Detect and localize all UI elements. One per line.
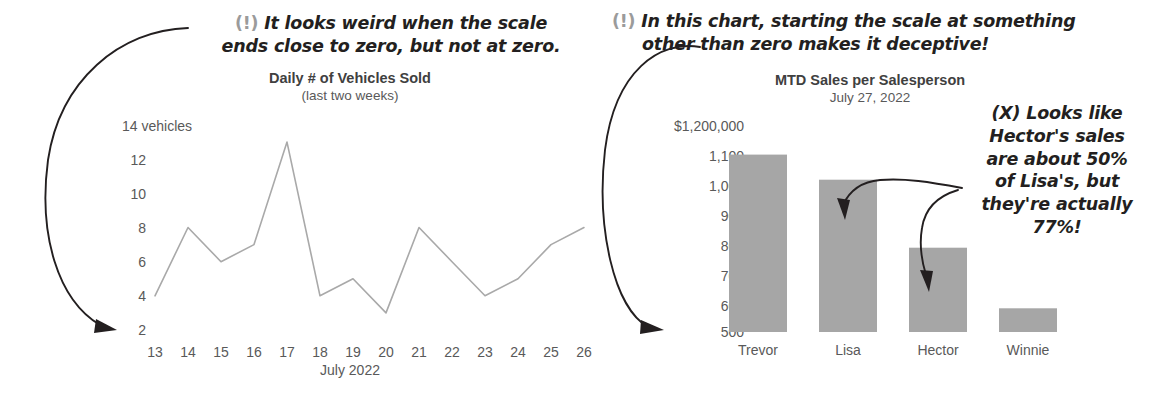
bar-xtick-lisa: Lisa — [806, 342, 890, 358]
annotation-hector: (X) Looks like Hector's sales are about … — [957, 102, 1157, 239]
bar-chart-title: MTD Sales per Salesperson — [720, 72, 1020, 88]
annotation-hector-line6: 77%! — [1032, 217, 1081, 237]
bar-winnie — [999, 308, 1057, 332]
line-chart-subtitle: (last two weeks) — [180, 88, 520, 103]
line-xtick-23: 23 — [474, 344, 496, 360]
line-ytick-2: 2 — [102, 322, 146, 338]
line-xtick-25: 25 — [540, 344, 562, 360]
line-ytick-12: 12 — [102, 152, 146, 168]
bar-ytick-900: 900 — [648, 208, 744, 224]
annotation-left-line2c: zero. — [506, 36, 560, 56]
line-ytick-10: 10 — [102, 186, 146, 202]
bar-ytick-600: 600 — [648, 298, 744, 314]
line-chart-xlabel: July 2022 — [200, 362, 500, 378]
annotation-left-line2a: ends — [222, 36, 274, 56]
annotation-hector-line2: Hector's sales — [989, 126, 1124, 146]
line-chart-title: Daily # of Vehicles Sold — [180, 70, 520, 86]
bar-ytick-500: 500 — [648, 324, 744, 340]
annotation-arrow-hector — [837, 179, 962, 292]
bar-ytick-700: 700 — [648, 268, 744, 284]
line-xtick-21: 21 — [408, 344, 430, 360]
bar-ytick-1000: 1,000 — [648, 178, 744, 194]
line-xtick-20: 20 — [375, 344, 397, 360]
line-xtick-22: 22 — [441, 344, 463, 360]
bar-xtick-trevor: Trevor — [716, 342, 800, 358]
line-ytick-4: 4 — [102, 288, 146, 304]
bar-ytick-800: 800 — [648, 238, 744, 254]
annotation-left-line1: It looks weird when the scale — [258, 13, 547, 33]
line-xtick-13: 13 — [144, 344, 166, 360]
annotation-hector-line1: (X) Looks like — [991, 103, 1122, 123]
slide-canvas: (!) It looks weird when the scale ends c… — [0, 0, 1165, 402]
annotation-hector-line4: of Lisa's, but — [995, 171, 1119, 191]
bar-xtick-hector: Hector — [896, 342, 980, 358]
bar-ytick-1100: 1,100 — [648, 148, 744, 164]
line-ytick-14: 14 vehicles — [122, 118, 192, 134]
line-xtick-26: 26 — [573, 344, 595, 360]
bar-ytick-1200000: $1,200,000 — [648, 118, 744, 134]
bar-xtick-winnie: Winnie — [986, 342, 1070, 358]
line-xtick-14: 14 — [177, 344, 199, 360]
line-xtick-18: 18 — [309, 344, 331, 360]
line-ytick-8: 8 — [102, 220, 146, 236]
line-chart-series — [155, 142, 584, 313]
warning-marker-icon-right: (!) — [612, 11, 635, 31]
annotation-left-line2b: to zero, but not — [324, 36, 487, 56]
annotation-hector-line5: they're actually — [981, 194, 1132, 214]
annotation-hector-line3: are about 50% — [987, 149, 1128, 169]
annotation-right: (!) In this chart, starting the scale at… — [612, 10, 1132, 56]
line-xtick-24: 24 — [507, 344, 529, 360]
line-xtick-17: 17 — [276, 344, 298, 360]
line-xtick-19: 19 — [342, 344, 364, 360]
line-xtick-15: 15 — [210, 344, 232, 360]
annotation-right-line2: other than zero makes it deceptive! — [642, 34, 989, 54]
bar-hector — [909, 248, 967, 332]
annotation-right-line1: In this chart, starting the scale at som… — [635, 11, 1075, 31]
line-ytick-6: 6 — [102, 254, 146, 270]
annotation-left-em-close: close — [274, 36, 324, 56]
warning-marker-icon: (!) — [235, 13, 258, 33]
bar-lisa — [819, 180, 877, 332]
annotation-left-em-at: at — [486, 36, 506, 56]
line-xtick-16: 16 — [243, 344, 265, 360]
annotation-left: (!) It looks weird when the scale ends c… — [176, 12, 606, 58]
